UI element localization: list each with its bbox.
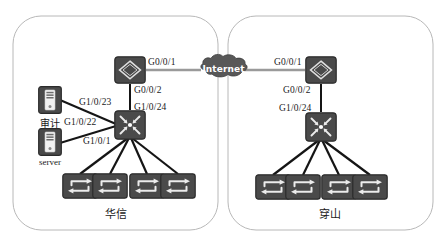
port-label-left-server-port: G1/0/1 bbox=[83, 136, 111, 146]
port-label-right-router-wan: G0/0/1 bbox=[274, 57, 302, 67]
port-label-left-router-lan: G0/0/2 bbox=[134, 85, 162, 95]
group-label-left: 华信 bbox=[90, 205, 142, 221]
port-label-left-router-wan: G0/0/1 bbox=[148, 57, 176, 67]
device-right-access-switch-1[interactable] bbox=[256, 175, 290, 199]
device-left-access-switch-4[interactable] bbox=[161, 174, 195, 198]
device-left-access-switch-1[interactable] bbox=[63, 174, 97, 198]
device-right-access-switch-3[interactable] bbox=[322, 175, 356, 199]
network-topology-diagram: Internet G0/0/1 G0/0/2 G1/0/24 G1/0/23 G… bbox=[0, 0, 446, 250]
device-left-core-switch[interactable] bbox=[115, 111, 145, 139]
device-right-core-switch[interactable] bbox=[306, 113, 336, 141]
device-right-access-switch-4[interactable] bbox=[353, 175, 387, 199]
device-left-access-switch-2[interactable] bbox=[93, 174, 127, 198]
node-label-server: server bbox=[28, 157, 72, 167]
device-right-router[interactable] bbox=[306, 57, 336, 83]
device-left-router[interactable] bbox=[115, 57, 145, 83]
port-label-left-audit-port2: G1/0/22 bbox=[64, 117, 97, 127]
device-left-audit-server[interactable] bbox=[39, 87, 62, 114]
device-right-access-switch-2[interactable] bbox=[286, 175, 320, 199]
node-label-audit-server: 审计 bbox=[32, 115, 68, 130]
port-label-left-audit-port: G1/0/23 bbox=[79, 97, 112, 107]
internet-cloud-label: Internet bbox=[202, 64, 245, 74]
group-label-right: 穿山 bbox=[304, 205, 356, 221]
port-label-left-core-uplink: G1/0/24 bbox=[134, 102, 167, 112]
port-label-right-router-lan: G0/0/2 bbox=[283, 85, 311, 95]
internet-cloud: Internet bbox=[201, 54, 247, 76]
port-label-right-core-uplink: G1/0/24 bbox=[279, 103, 312, 113]
device-left-server[interactable] bbox=[39, 129, 62, 156]
device-left-access-switch-3[interactable] bbox=[130, 174, 164, 198]
right-devices bbox=[256, 57, 387, 199]
